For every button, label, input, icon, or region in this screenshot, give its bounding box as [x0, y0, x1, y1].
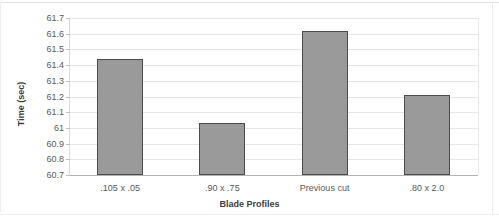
x-axis-title: Blade Profiles	[0, 199, 499, 209]
y-tick-label: 61.6	[28, 30, 64, 39]
y-tick-label: 61.7	[28, 14, 64, 23]
y-axis-title: Time (sec)	[16, 64, 26, 144]
x-axis-line	[69, 175, 478, 176]
plot-area	[69, 18, 478, 175]
figure-border-bottom	[0, 214, 499, 215]
bar	[302, 31, 348, 175]
y-tick-label: 61.1	[28, 108, 64, 117]
bar-chart: 60.760.860.96161.161.261.361.461.561.661…	[0, 0, 499, 221]
x-tick-label: .80 x 2.0	[367, 183, 487, 194]
y-tick-label: 60.7	[28, 171, 64, 180]
y-tick-label: 61.3	[28, 77, 64, 86]
y-tick-label: 61.2	[28, 93, 64, 102]
bar	[199, 123, 245, 175]
figure-border-right	[492, 2, 493, 214]
y-tick-label: 60.8	[28, 155, 64, 164]
y-tick-label: 61	[28, 124, 64, 133]
y-axis-tick-labels: 60.760.860.96161.161.261.361.461.561.661…	[26, 0, 64, 221]
plot-area-right-edge	[478, 18, 479, 175]
y-tick-label: 61.4	[28, 61, 64, 70]
y-tick-mark	[66, 175, 70, 176]
figure-border-top	[0, 2, 499, 3]
bar	[404, 95, 450, 175]
y-tick-label: 60.9	[28, 140, 64, 149]
figure-border-left	[0, 2, 1, 212]
bar	[97, 59, 143, 175]
y-tick-label: 61.5	[28, 45, 64, 54]
